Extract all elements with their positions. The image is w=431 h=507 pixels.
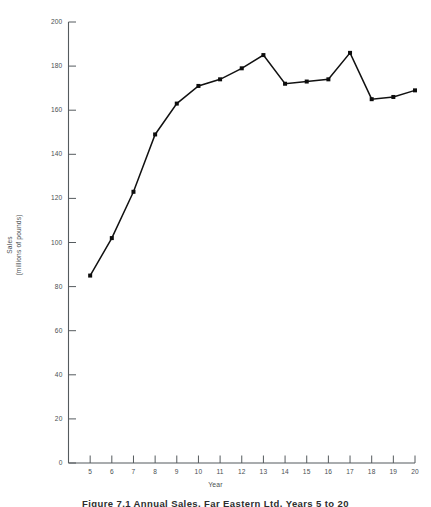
y-tick-label: 140 [29, 150, 63, 157]
data-point-marker [370, 97, 374, 101]
x-tick-label: 9 [167, 468, 187, 475]
data-point-marker [218, 77, 222, 81]
y-tick-label: 40 [29, 371, 63, 378]
data-point-marker [240, 66, 244, 70]
y-axis-title-line2: (millions of pounds) [15, 175, 24, 315]
x-tick-label: 6 [102, 468, 122, 475]
y-tick-label: 100 [29, 239, 63, 246]
data-point-marker [175, 102, 179, 106]
x-tick-label: 17 [340, 468, 360, 475]
x-tick-label: 5 [80, 468, 100, 475]
y-tick-label: 180 [29, 62, 63, 69]
data-point-marker [196, 84, 200, 88]
x-tick-label: 19 [383, 468, 403, 475]
data-point-marker [326, 77, 330, 81]
data-point-marker [305, 80, 309, 84]
data-point-marker [110, 236, 114, 240]
y-tick-label: 160 [29, 106, 63, 113]
line-chart-plot [0, 0, 431, 507]
y-tick-label: 20 [29, 415, 63, 422]
data-point-marker [261, 53, 265, 57]
y-tick-label: 200 [29, 18, 63, 25]
x-tick-label: 10 [188, 468, 208, 475]
y-axis-title: Sales (millions of pounds) [6, 175, 23, 315]
x-tick-label: 14 [275, 468, 295, 475]
y-tick-label: 120 [29, 194, 63, 201]
data-point-marker [153, 132, 157, 136]
data-point-marker [131, 190, 135, 194]
x-tick-label: 15 [297, 468, 317, 475]
figure-container: 020406080100120140160180200 567891011121… [0, 0, 431, 507]
figure-caption: Figure 7.1 Annual Sales, Far Eastern Ltd… [0, 498, 431, 507]
data-point-marker [348, 51, 352, 55]
x-axis-title: Year [0, 481, 431, 488]
data-point-marker [413, 88, 417, 92]
x-tick-label: 20 [405, 468, 425, 475]
data-point-marker [283, 82, 287, 86]
x-tick-label: 8 [145, 468, 165, 475]
x-tick-label: 7 [123, 468, 143, 475]
tick-marks-group [69, 22, 416, 463]
x-tick-label: 12 [232, 468, 252, 475]
x-tick-label: 11 [210, 468, 230, 475]
y-tick-label: 80 [29, 283, 63, 290]
y-axis-title-line1: Sales [6, 175, 15, 315]
series-line-sales [90, 53, 415, 276]
x-tick-label: 16 [318, 468, 338, 475]
axes-group [69, 22, 416, 463]
data-point-marker [88, 274, 92, 278]
y-tick-label: 60 [29, 327, 63, 334]
x-tick-label: 18 [362, 468, 382, 475]
y-tick-label: 0 [29, 459, 63, 466]
series-markers-sales [88, 51, 417, 278]
x-tick-label: 13 [253, 468, 273, 475]
data-point-marker [391, 95, 395, 99]
